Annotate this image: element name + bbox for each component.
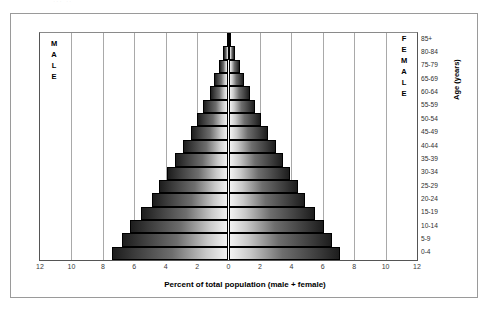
- bar-male: [214, 73, 228, 86]
- bar-male: [152, 193, 229, 206]
- age-tick-label: 5-9: [421, 235, 455, 242]
- legend-letter: M: [48, 38, 60, 49]
- pyramid-row: [40, 60, 417, 73]
- bar-male: [122, 233, 229, 246]
- bar-female: [229, 86, 250, 99]
- bar-female: [229, 207, 315, 220]
- pyramid-row: [40, 140, 417, 153]
- bar-female: [229, 193, 306, 206]
- x-tick-label: 10: [382, 263, 390, 270]
- pyramid-bars-group: [40, 33, 417, 260]
- legend-letter: E: [398, 44, 410, 55]
- age-tick-label: 25-29: [421, 182, 455, 189]
- top-text-fragment: ... ..: [53, 0, 72, 2]
- pyramid-row: [40, 153, 417, 166]
- legend-female: FEMALE: [398, 33, 410, 99]
- pyramid-row: [40, 86, 417, 99]
- age-tick-label: 80-84: [421, 48, 455, 55]
- age-tick-label: 85+: [421, 35, 455, 42]
- legend-letter: F: [398, 33, 410, 44]
- age-tick-label: 10-14: [421, 222, 455, 229]
- bar-female: [229, 73, 245, 86]
- age-tick-label: 35-39: [421, 155, 455, 162]
- legend-letter: L: [398, 77, 410, 88]
- pyramid-row: [40, 233, 417, 246]
- bar-female: [229, 167, 290, 180]
- age-tick-label: 20-24: [421, 195, 455, 202]
- legend-letter: A: [398, 66, 410, 77]
- x-tick-label: 6: [132, 263, 136, 270]
- x-tick-label: 12: [413, 263, 421, 270]
- bar-male: [183, 140, 229, 153]
- bar-female: [229, 140, 276, 153]
- bar-male: [219, 60, 228, 73]
- age-tick-label: 30-34: [421, 168, 455, 175]
- bar-female: [229, 233, 333, 246]
- age-tick-label: 55-59: [421, 101, 455, 108]
- age-tick-label: 75-79: [421, 61, 455, 68]
- bar-male: [191, 126, 229, 139]
- bar-female: [229, 153, 284, 166]
- age-tick-label: 60-64: [421, 88, 455, 95]
- legend-letter: E: [48, 71, 60, 82]
- x-tick-label: 4: [289, 263, 293, 270]
- age-tick-labels: 0-45-910-1415-1920-2425-2930-3435-3940-4…: [421, 32, 455, 261]
- x-tick-labels: 12108642024681012: [39, 263, 418, 275]
- x-tick-label: 4: [164, 263, 168, 270]
- age-tick-label: 15-19: [421, 208, 455, 215]
- x-axis-title: Percent of total population (male + fema…: [0, 280, 490, 289]
- x-tick-label: 8: [352, 263, 356, 270]
- pyramid-row: [40, 100, 417, 113]
- pyramid-row: [40, 207, 417, 220]
- age-tick-label: 65-69: [421, 75, 455, 82]
- pyramid-row: [40, 113, 417, 126]
- bar-male: [203, 100, 228, 113]
- age-axis-title: Age (years): [452, 59, 461, 100]
- bar-female: [229, 220, 325, 233]
- bar-male: [175, 153, 228, 166]
- bar-female: [229, 33, 231, 46]
- population-pyramid-figure: ... .. MALE FEMALE 0-45-910-1415-1920-24…: [0, 0, 490, 315]
- pyramid-row: [40, 247, 417, 260]
- legend-letter: M: [398, 55, 410, 66]
- bar-female: [229, 60, 240, 73]
- pyramid-row: [40, 126, 417, 139]
- legend-male: MALE: [48, 38, 60, 82]
- pyramid-row: [40, 180, 417, 193]
- age-tick-label: 45-49: [421, 128, 455, 135]
- bar-male: [167, 167, 228, 180]
- bar-female: [229, 247, 341, 260]
- x-tick-label: 0: [227, 263, 231, 270]
- bar-female: [229, 180, 298, 193]
- x-tick-label: 10: [68, 263, 76, 270]
- chart-plot-area: [39, 32, 418, 261]
- bar-male: [197, 113, 228, 126]
- pyramid-row: [40, 220, 417, 233]
- bar-female: [229, 100, 256, 113]
- bar-male: [141, 207, 229, 220]
- x-tick-label: 12: [36, 263, 44, 270]
- bar-male: [210, 86, 229, 99]
- bar-female: [229, 126, 268, 139]
- bar-male: [130, 220, 229, 233]
- x-tick-label: 6: [321, 263, 325, 270]
- x-tick-label: 2: [195, 263, 199, 270]
- age-tick-label: 40-44: [421, 142, 455, 149]
- legend-letter: E: [398, 88, 410, 99]
- legend-letter: L: [48, 60, 60, 71]
- age-tick-label: 0-4: [421, 248, 455, 255]
- bar-male: [112, 247, 228, 260]
- pyramid-row: [40, 73, 417, 86]
- pyramid-row: [40, 193, 417, 206]
- age-tick-label: 50-54: [421, 115, 455, 122]
- bar-male: [159, 180, 228, 193]
- x-tick-label: 8: [101, 263, 105, 270]
- pyramid-row: [40, 167, 417, 180]
- legend-letter: A: [48, 49, 60, 60]
- pyramid-row: [40, 33, 417, 46]
- bar-female: [229, 46, 236, 59]
- bar-female: [229, 113, 262, 126]
- x-tick-label: 2: [258, 263, 262, 270]
- pyramid-row: [40, 46, 417, 59]
